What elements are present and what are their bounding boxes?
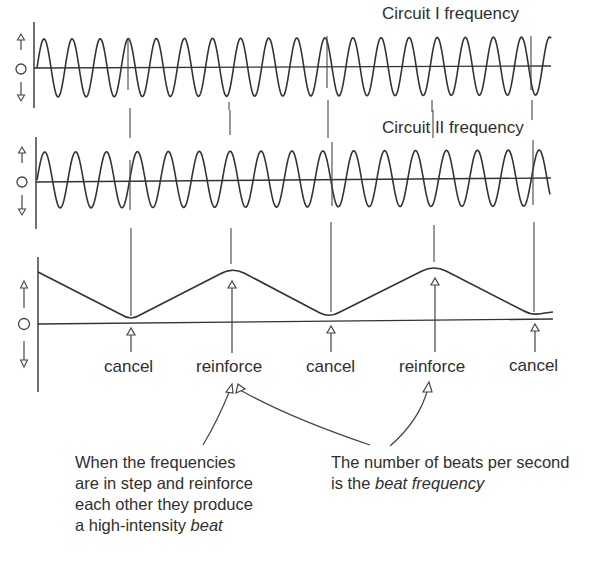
- emphasis-beat: beat: [191, 516, 223, 534]
- callout-line: are in step and reinforce: [75, 473, 253, 494]
- up-arrow-icon: [127, 328, 135, 352]
- resultant-baseline: [38, 319, 553, 324]
- resultant-panel: [19, 257, 554, 392]
- up-arrow-icon: [531, 324, 539, 352]
- zero-symbol-icon: [17, 177, 27, 187]
- callout-line: a high-intensity beat: [75, 515, 253, 536]
- zero-symbol-icon: [19, 319, 30, 330]
- circuit-2-baseline: [36, 178, 551, 182]
- marker-label-cancel-3: cancel: [509, 357, 558, 374]
- circuit-1-title: Circuit I frequency: [382, 5, 519, 22]
- marker-label-cancel-1: cancel: [104, 358, 153, 375]
- event-guide-lines: [128, 36, 534, 316]
- emphasis-beat-frequency: beat frequency: [375, 474, 484, 492]
- up-arrow-icon: [327, 326, 335, 352]
- circuit-1-axis-symbols: [16, 34, 26, 101]
- circuit-2-axis-symbols: [17, 147, 27, 215]
- beat-envelope: [38, 268, 553, 318]
- resultant-axis-symbols: [19, 281, 30, 367]
- callout-beat-frequency: The number of beats per second is the be…: [331, 452, 569, 494]
- circuit-2-title: Circuit II frequency: [382, 119, 524, 136]
- callout-line: is the beat frequency: [331, 473, 569, 494]
- marker-label-reinforce-1: reinforce: [196, 358, 262, 375]
- circuit-1-baseline: [34, 66, 551, 68]
- marker-label-cancel-2: cancel: [306, 358, 355, 375]
- callout-leaders: [203, 382, 432, 446]
- callout-line: The number of beats per second: [331, 452, 569, 473]
- up-arrow-icon: [431, 278, 439, 352]
- zero-symbol-icon: [16, 64, 26, 74]
- callout-line: When the frequencies: [75, 452, 253, 473]
- circuit-2-panel: [17, 137, 551, 229]
- up-arrow-icon: [228, 281, 236, 353]
- callout-high-intensity-beat: When the frequencies are in step and rei…: [75, 452, 253, 536]
- callout-line: each other they produce: [75, 494, 253, 515]
- circuit-1-panel: [16, 22, 551, 108]
- marker-label-reinforce-2: reinforce: [399, 358, 465, 375]
